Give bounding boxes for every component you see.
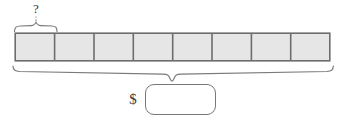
currency-symbol: $ — [126, 90, 140, 108]
unknown-part-label: ? — [28, 1, 44, 16]
tape-bar — [15, 33, 330, 61]
tape-diagram: ? $ — [0, 0, 341, 125]
answer-input-box[interactable] — [145, 84, 216, 115]
total-brace — [13, 66, 333, 81]
unknown-part-brace — [15, 17, 58, 32]
